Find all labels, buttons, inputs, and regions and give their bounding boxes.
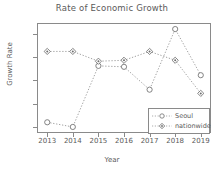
data-point-center-dot (97, 60, 99, 62)
data-point-seoul (121, 64, 126, 69)
legend-item-seoul: Seoul (152, 112, 193, 120)
data-point-center-dot (174, 59, 176, 61)
legend-label-seoul: Seoul (175, 112, 193, 120)
legend-symbol-circle-icon (152, 112, 172, 120)
legend-item-nationwide: nationwide (152, 122, 211, 130)
legend-label-nationwide: nationwide (175, 122, 211, 130)
data-point-center-dot (200, 92, 202, 94)
chart-root: Rate of Economic Growth Growth Rate Year… (0, 0, 224, 172)
data-point-center-dot (123, 59, 125, 61)
chart-legend: Seoul nationwide (148, 108, 210, 134)
data-point-seoul (173, 26, 178, 31)
data-point-seoul (45, 120, 50, 125)
legend-symbol-diamond-icon (152, 122, 172, 130)
data-point-center-dot (72, 50, 74, 52)
data-point-seoul (198, 73, 203, 78)
data-point-center-dot (149, 50, 151, 52)
data-point-center-dot (46, 50, 48, 52)
series-layer (0, 0, 224, 172)
data-point-seoul (70, 124, 75, 129)
data-point-seoul (147, 87, 152, 92)
